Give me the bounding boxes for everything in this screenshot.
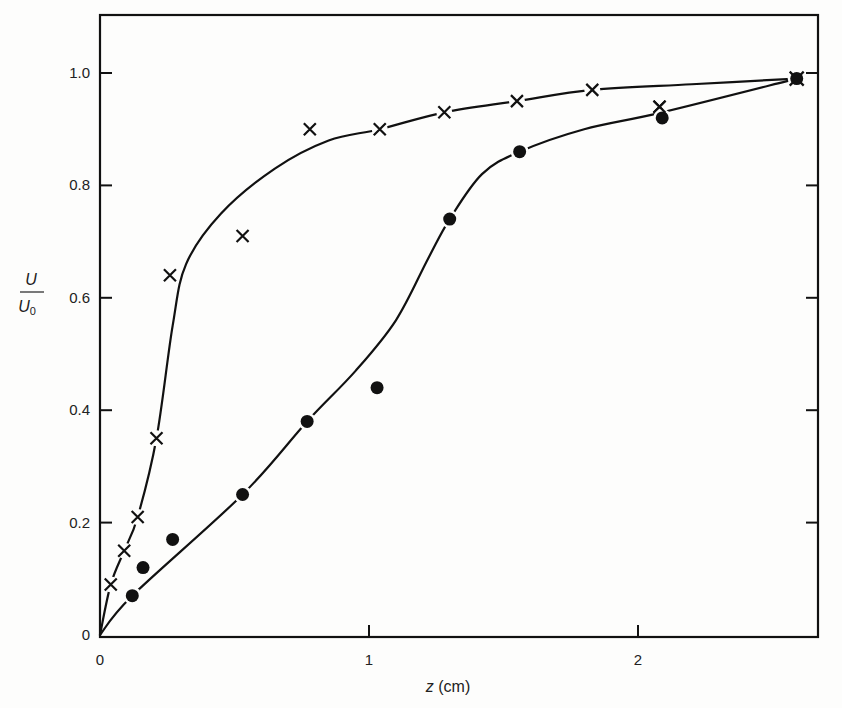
x-axis-ticks: 012 bbox=[96, 625, 642, 668]
dot-marker bbox=[166, 533, 179, 546]
velocity-profile-chart: 00.20.40.60.81.0 012 U U0 z (cm) bbox=[0, 0, 842, 708]
dot-marker bbox=[126, 589, 139, 602]
y-tick-label: 0.4 bbox=[69, 401, 90, 418]
y-title-denominator: U0 bbox=[18, 298, 36, 317]
y-tick-label: 1.0 bbox=[69, 64, 90, 81]
y-tick-label: 0 bbox=[82, 626, 90, 643]
y-axis-title: U U0 bbox=[18, 271, 44, 317]
dot-marker bbox=[371, 381, 384, 394]
dot-marker bbox=[443, 213, 456, 226]
dot-marker bbox=[513, 145, 526, 158]
plot-frame bbox=[100, 15, 818, 637]
y-tick-label: 0.6 bbox=[69, 289, 90, 306]
x-axis-title: z (cm) bbox=[425, 678, 470, 695]
y-title-numerator: U bbox=[25, 271, 37, 288]
data-markers bbox=[103, 70, 806, 605]
dot-marker bbox=[137, 561, 150, 574]
fitted-curves bbox=[100, 79, 797, 635]
dots-curve bbox=[100, 79, 797, 635]
x-tick-label: 2 bbox=[634, 651, 642, 668]
x-tick-label: 0 bbox=[96, 651, 104, 668]
dot-marker bbox=[236, 488, 249, 501]
y-axis-ticks: 00.20.40.60.81.0 bbox=[69, 64, 818, 643]
crosses-curve bbox=[100, 79, 797, 635]
y-tick-label: 0.2 bbox=[69, 514, 90, 531]
y-tick-label: 0.8 bbox=[69, 176, 90, 193]
dot-marker bbox=[656, 111, 669, 124]
dot-marker bbox=[301, 415, 314, 428]
x-tick-label: 1 bbox=[365, 651, 373, 668]
